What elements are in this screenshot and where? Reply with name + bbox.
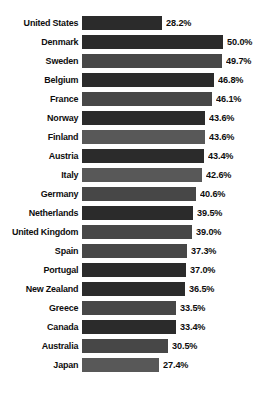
bar-value-label: 46.8% — [218, 75, 243, 85]
bar-track: 30.5% — [82, 336, 270, 355]
bar-category-label: Germany — [5, 189, 82, 199]
bar-category-label: Austria — [5, 151, 82, 161]
bar-row: Portugal37.0% — [0, 260, 270, 279]
bar — [82, 35, 223, 49]
horizontal-bar-chart: United States28.2%Denmark50.0%Sweden49.7… — [0, 0, 270, 414]
bar-row: New Zealand36.5% — [0, 279, 270, 298]
bar-row: Norway43.6% — [0, 108, 270, 127]
bar-category-label: Greece — [5, 303, 82, 313]
bar-row: Finland43.6% — [0, 127, 270, 146]
bar-category-label: United Kingdom — [5, 227, 82, 237]
bar-track: 33.4% — [82, 317, 270, 336]
bar — [82, 320, 176, 334]
bar-value-label: 39.5% — [197, 208, 222, 218]
bar-row: Greece33.5% — [0, 298, 270, 317]
bar-track: 36.5% — [82, 279, 270, 298]
bar-category-label: Japan — [5, 360, 82, 370]
bar-value-label: 33.5% — [180, 303, 205, 313]
bar-track: 37.3% — [82, 241, 270, 260]
bar-track: 50.0% — [82, 32, 270, 51]
bar-category-label: Netherlands — [5, 208, 82, 218]
bar-track: 39.5% — [82, 203, 270, 222]
bar-row: Netherlands39.5% — [0, 203, 270, 222]
bar — [82, 54, 222, 68]
bar-value-label: 30.5% — [172, 341, 197, 351]
bar-value-label: 37.0% — [190, 265, 215, 275]
bar-row: Germany40.6% — [0, 184, 270, 203]
bar-track: 33.5% — [82, 298, 270, 317]
bar-category-label: Belgium — [5, 75, 82, 85]
bar — [82, 206, 193, 220]
bar — [82, 16, 162, 30]
bar-category-label: Norway — [5, 113, 82, 123]
bar-row: Canada33.4% — [0, 317, 270, 336]
bar — [82, 339, 168, 353]
bar-track: 43.4% — [82, 146, 270, 165]
bar-track: 39.0% — [82, 222, 270, 241]
bar-value-label: 40.6% — [200, 189, 225, 199]
bar-category-label: Denmark — [5, 37, 82, 47]
bar-track: 37.0% — [82, 260, 270, 279]
bar-category-label: Portugal — [5, 265, 82, 275]
bar-row: Austria43.4% — [0, 146, 270, 165]
bar — [82, 301, 176, 315]
bar-category-label: Italy — [5, 170, 82, 180]
bar — [82, 244, 187, 258]
bar-value-label: 49.7% — [226, 56, 251, 66]
bar-value-label: 28.2% — [166, 18, 191, 28]
bar — [82, 187, 196, 201]
bar-category-label: New Zealand — [5, 284, 82, 294]
bar — [82, 225, 192, 239]
bar — [82, 263, 186, 277]
bar-row: Denmark50.0% — [0, 32, 270, 51]
bar-track: 40.6% — [82, 184, 270, 203]
bar-value-label: 43.6% — [209, 113, 234, 123]
bar-value-label: 46.1% — [216, 94, 241, 104]
bar — [82, 282, 185, 296]
bar-row: Sweden49.7% — [0, 51, 270, 70]
bar-row: Italy42.6% — [0, 165, 270, 184]
bar-row: United Kingdom39.0% — [0, 222, 270, 241]
bar-row: Japan27.4% — [0, 355, 270, 374]
bar-value-label: 43.6% — [209, 132, 234, 142]
bar-track: 27.4% — [82, 355, 270, 374]
bar-category-label: Spain — [5, 246, 82, 256]
bar-category-label: France — [5, 94, 82, 104]
bar-value-label: 42.6% — [206, 170, 231, 180]
bar-category-label: Sweden — [5, 56, 82, 66]
bar-track: 49.7% — [82, 51, 270, 70]
bar-category-label: Australia — [5, 341, 82, 351]
bar — [82, 149, 204, 163]
bar-row: Belgium46.8% — [0, 70, 270, 89]
bar-row: Australia30.5% — [0, 336, 270, 355]
bar-track: 46.8% — [82, 70, 270, 89]
bar — [82, 111, 205, 125]
bar-value-label: 43.4% — [208, 151, 233, 161]
bar-rows-container: United States28.2%Denmark50.0%Sweden49.7… — [0, 13, 270, 374]
bar — [82, 168, 202, 182]
bar-category-label: Finland — [5, 132, 82, 142]
bar — [82, 130, 205, 144]
bar-row: France46.1% — [0, 89, 270, 108]
bar-category-label: Canada — [5, 322, 82, 332]
bar-track: 28.2% — [82, 13, 270, 32]
bar-value-label: 33.4% — [180, 322, 205, 332]
bar — [82, 358, 159, 372]
bar-row: United States28.2% — [0, 13, 270, 32]
bar-value-label: 50.0% — [227, 37, 252, 47]
bar-value-label: 36.5% — [189, 284, 214, 294]
bar — [82, 73, 214, 87]
bar-track: 43.6% — [82, 108, 270, 127]
bar-row: Spain37.3% — [0, 241, 270, 260]
bar-value-label: 37.3% — [191, 246, 216, 256]
bar-track: 43.6% — [82, 127, 270, 146]
bar-value-label: 39.0% — [196, 227, 221, 237]
bar — [82, 92, 212, 106]
bar-value-label: 27.4% — [163, 360, 188, 370]
bar-track: 42.6% — [82, 165, 270, 184]
bar-track: 46.1% — [82, 89, 270, 108]
bar-category-label: United States — [5, 18, 82, 28]
